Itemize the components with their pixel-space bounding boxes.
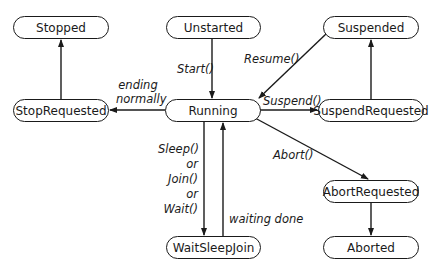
state-stopped: Stopped [13, 16, 109, 39]
state-stop-requested: StopRequested [13, 99, 109, 122]
label-waiting-done: waiting done [229, 212, 303, 226]
state-abort-requested: AbortRequested [323, 180, 419, 203]
transition-arrows [0, 0, 435, 270]
state-aborted: Aborted [323, 236, 419, 259]
label-resume: Resume() [244, 52, 300, 66]
label-or-2: or [158, 187, 198, 201]
label-sleep: Sleep() [158, 142, 198, 156]
label-suspend: Suspend() [263, 94, 322, 108]
label-wait: Wait() [158, 202, 198, 216]
label-normally: normally [116, 92, 167, 106]
arrow-resume [259, 34, 326, 98]
label-ending: ending [118, 78, 158, 92]
label-abort: Abort() [273, 148, 313, 162]
label-join: Join() [158, 172, 198, 186]
label-or-1: or [158, 157, 198, 171]
state-suspended: Suspended [323, 16, 419, 39]
state-suspend-requested: SuspendRequested [318, 99, 424, 122]
label-start: Start() [177, 62, 214, 76]
state-unstarted: Unstarted [166, 16, 261, 39]
state-wait-sleep-join: WaitSleepJoin [166, 236, 261, 259]
state-running: Running [165, 99, 261, 122]
